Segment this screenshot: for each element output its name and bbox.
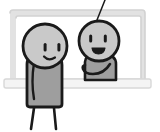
figure-right-eye-left	[89, 35, 92, 43]
illustration-canvas: Two cartoon figures standing in front of…	[0, 0, 160, 132]
figure-right-mouth	[92, 48, 105, 54]
figure-left-eye-right	[57, 43, 60, 52]
figure-right-eye-right	[104, 35, 107, 43]
scene-svg	[0, 0, 160, 132]
figure-right-head	[79, 21, 119, 61]
figure-right	[79, 21, 119, 80]
figure-left-eye-left	[44, 43, 47, 52]
